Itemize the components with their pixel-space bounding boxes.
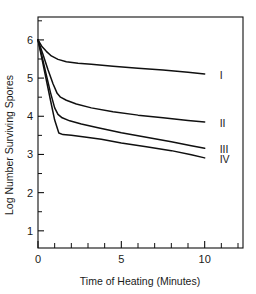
figure-container: 123456 0510 IIIIIIIV Time of Heating (Mi…	[0, 0, 256, 294]
y-tick-label: 3	[27, 148, 33, 160]
series-label-iv: IV	[220, 153, 230, 165]
y-tick-label: 6	[27, 34, 33, 46]
y-tick-label: 1	[27, 225, 33, 237]
x-tick-label: 5	[118, 253, 124, 265]
y-tick-label: 4	[27, 110, 33, 122]
x-axis-title: Time of Heating (Minutes)	[80, 275, 200, 287]
series-label-ii: II	[220, 117, 226, 129]
y-axis-title: Log Number Surviving Spores	[3, 75, 15, 215]
line-chart: 123456 0510 IIIIIIIV Time of Heating (Mi…	[0, 0, 256, 294]
y-tick-label: 5	[27, 72, 33, 84]
x-tick-label: 0	[35, 253, 41, 265]
series-label-i: I	[220, 69, 223, 81]
y-tick-label: 2	[27, 187, 33, 199]
x-tick-label: 10	[199, 253, 211, 265]
